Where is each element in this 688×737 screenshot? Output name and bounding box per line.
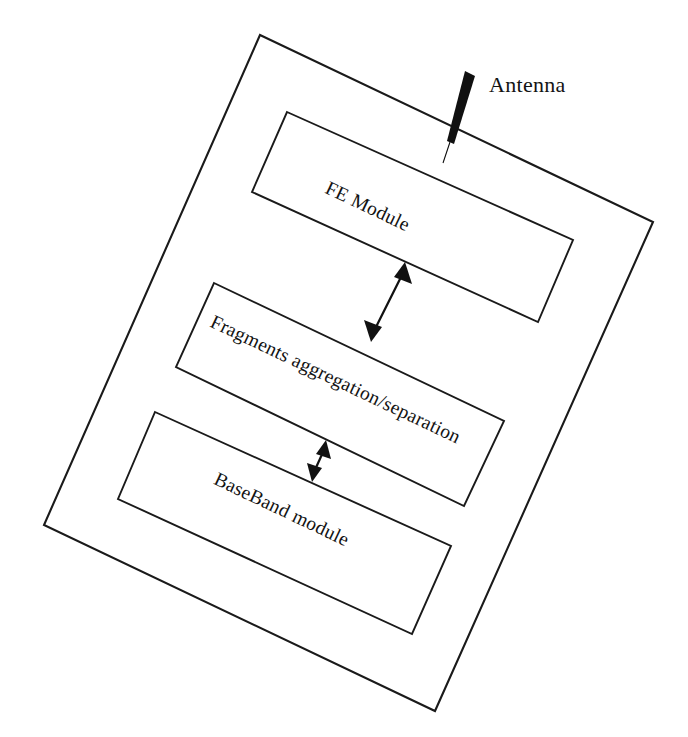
antenna-label: Antenna bbox=[489, 72, 566, 97]
fragments-block-label: Fragments aggregation/separation bbox=[207, 311, 464, 448]
arrow-head-down-icon bbox=[364, 320, 382, 342]
arrow-head-up-icon bbox=[316, 440, 331, 459]
antenna-lead-line bbox=[443, 142, 450, 163]
connector-fe-to-fragments bbox=[364, 262, 412, 342]
baseband-module-box[interactable] bbox=[118, 412, 451, 634]
arrow-head-up-icon bbox=[394, 262, 412, 284]
block-diagram: FE Module Fragments aggregation/separati… bbox=[0, 0, 688, 737]
fe-module-label: FE Module bbox=[322, 177, 413, 235]
antenna-icon bbox=[447, 71, 475, 144]
connector-fragments-to-baseband bbox=[307, 440, 331, 482]
diagram-canvas: FE Module Fragments aggregation/separati… bbox=[0, 0, 688, 737]
baseband-module-label: BaseBand module bbox=[211, 468, 353, 550]
arrow-head-down-icon bbox=[307, 463, 322, 482]
